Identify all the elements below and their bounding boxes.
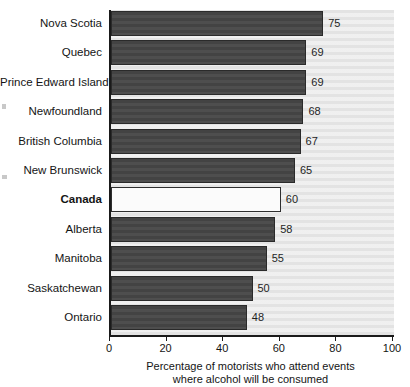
bar-chart: 7569696867656058555048 Nova ScotiaQuebec…	[0, 0, 410, 387]
bar-value-label: 75	[323, 11, 340, 36]
x-axis: 020406080100	[109, 337, 392, 359]
x-axis-tick	[279, 337, 280, 341]
plot-area: 7569696867656058555048	[109, 10, 394, 337]
bar-texture	[112, 306, 246, 329]
bar-row: 69	[111, 70, 394, 95]
bar-canada	[111, 187, 281, 212]
bar-texture	[112, 277, 252, 300]
bar-alberta	[111, 217, 275, 242]
bar-row: 69	[111, 40, 394, 65]
bar-value-label: 69	[306, 70, 323, 95]
category-label-nova-scotia: Nova Scotia	[0, 11, 102, 36]
bar-value-label: 55	[267, 246, 284, 271]
bar-value-label: 68	[303, 99, 320, 124]
bar-value-label: 50	[253, 276, 270, 301]
bar-nova-scotia	[111, 11, 323, 36]
bar-row: 68	[111, 99, 394, 124]
x-axis-tick-label: 20	[159, 342, 171, 354]
x-axis-tick-label: 100	[383, 342, 401, 354]
x-axis-tick-label: 0	[106, 342, 112, 354]
x-axis-caption-line-2: where alcohol will be consumed	[109, 373, 392, 386]
bar-value-label: 58	[275, 217, 292, 242]
bar-row: 50	[111, 276, 394, 301]
x-axis-caption: Percentage of motorists who attend event…	[109, 360, 392, 386]
category-label-ontario: Ontario	[0, 305, 102, 330]
bar-row: 75	[111, 11, 394, 36]
bar-value-label: 65	[295, 158, 312, 183]
category-label-saskatchewan: Saskatchewan	[0, 276, 102, 301]
bar-texture	[112, 41, 305, 64]
bar-newfoundland	[111, 99, 303, 124]
x-axis-tick	[392, 337, 393, 341]
bar-row: 65	[111, 158, 394, 183]
x-axis-tick-label: 80	[329, 342, 341, 354]
bar-quebec	[111, 40, 306, 65]
x-axis-caption-line-1: Percentage of motorists who attend event…	[109, 360, 392, 373]
bar-texture	[112, 71, 305, 94]
x-axis-tick-label: 60	[273, 342, 285, 354]
bar-prince-edward-island	[111, 70, 306, 95]
category-label-prince-edward-island: Prince Edward Island	[0, 70, 102, 95]
x-axis-tick	[166, 337, 167, 341]
bar-texture	[112, 218, 274, 241]
bar-value-label: 69	[306, 40, 323, 65]
bar-texture	[112, 188, 280, 211]
bar-texture	[112, 247, 266, 270]
bar-texture	[112, 12, 322, 35]
category-label-canada: Canada	[0, 187, 102, 212]
bar-value-label: 60	[281, 187, 298, 212]
category-label-alberta: Alberta	[0, 217, 102, 242]
x-axis-tick	[222, 337, 223, 341]
bar-british-columbia	[111, 129, 301, 154]
bar-row: 67	[111, 129, 394, 154]
bar-texture	[112, 130, 300, 153]
bar-row: 48	[111, 305, 394, 330]
category-label-quebec: Quebec	[0, 40, 102, 65]
bar-value-label: 67	[301, 129, 318, 154]
bar-row: 60	[111, 187, 394, 212]
bar-manitoba	[111, 246, 267, 271]
x-axis-tick	[109, 337, 110, 341]
x-axis-tick	[335, 337, 336, 341]
x-axis-tick-label: 40	[216, 342, 228, 354]
category-label-british-columbia: British Columbia	[0, 129, 102, 154]
bar-ontario	[111, 305, 247, 330]
bar-texture	[112, 159, 294, 182]
bar-row: 55	[111, 246, 394, 271]
category-label-newfoundland: Newfoundland	[0, 99, 102, 124]
bar-saskatchewan	[111, 276, 253, 301]
bar-texture	[112, 100, 302, 123]
category-label-manitoba: Manitoba	[0, 246, 102, 271]
bar-new-brunswick	[111, 158, 295, 183]
bar-row: 58	[111, 217, 394, 242]
bar-value-label: 48	[247, 305, 264, 330]
category-label-new-brunswick: New Brunswick	[0, 158, 102, 183]
